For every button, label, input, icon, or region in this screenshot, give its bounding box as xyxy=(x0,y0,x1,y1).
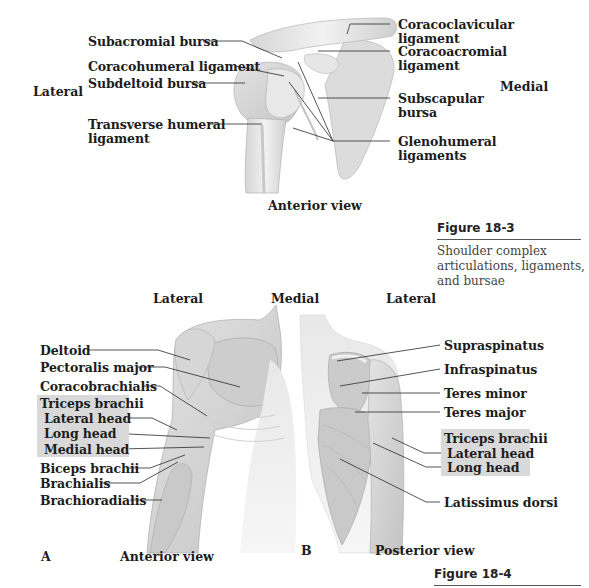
figure-18-4-rule xyxy=(434,585,581,586)
direction-medial-center: Medial xyxy=(271,291,319,306)
label-triceps-brachii-a: Triceps brachii xyxy=(40,396,144,411)
view-label-fig-18-3: Anterior view xyxy=(268,198,362,213)
label-glenohumeral: Glenohumeral xyxy=(398,134,496,149)
figure-18-3-title: Figure 18-3 xyxy=(437,221,515,235)
label-deltoid: Deltoid xyxy=(40,343,90,358)
view-label-posterior: Posterior view xyxy=(375,543,475,558)
figure-18-4-title: Figure 18-4 xyxy=(434,567,512,581)
label-coracoacromial-ligament: ligament xyxy=(398,58,460,73)
label-subscapular: Subscapular xyxy=(398,91,484,106)
label-medial-head-a: Medial head xyxy=(44,442,129,457)
label-biceps-brachii: Biceps brachii xyxy=(40,461,139,476)
caption-line-1: Shoulder complex xyxy=(437,244,589,259)
label-subdeltoid-bursa: Subdeltoid bursa xyxy=(88,76,206,91)
anterior-arm-illustration xyxy=(147,305,296,553)
label-transverse-humeral: Transverse humeral xyxy=(88,117,225,132)
direction-lateral-right: Lateral xyxy=(386,291,436,306)
direction-lateral-fig-18-3: Lateral xyxy=(33,84,83,99)
label-lateral-head-b: Lateral head xyxy=(447,446,534,461)
panel-letter-b: B xyxy=(301,543,312,558)
label-brachioradialis: Brachioradialis xyxy=(40,493,146,508)
caption-line-2: articulations, ligaments, xyxy=(437,259,589,274)
direction-medial-fig-18-3: Medial xyxy=(500,79,548,94)
label-pectoralis-major: Pectoralis major xyxy=(40,360,153,375)
caption-line-3: and bursae xyxy=(437,274,589,289)
label-triceps-brachii-b: Triceps brachii xyxy=(444,431,548,446)
figure-18-3-rule xyxy=(437,239,581,240)
view-label-anterior: Anterior view xyxy=(120,549,214,564)
label-long-head-b: Long head xyxy=(447,460,519,475)
panel-letter-a: A xyxy=(41,549,51,564)
label-coracoclavicular: Coracoclavicular xyxy=(398,17,514,32)
label-infraspinatus: Infraspinatus xyxy=(444,362,537,377)
label-lateral-head-a: Lateral head xyxy=(44,411,131,426)
posterior-arm-illustration xyxy=(300,315,404,553)
label-glenohumeral-ligaments: ligaments xyxy=(398,148,467,163)
label-brachialis: Brachialis xyxy=(40,476,110,491)
label-coracohumeral-ligament: Coracohumeral ligament xyxy=(88,59,260,74)
label-latissimus-dorsi: Latissimus dorsi xyxy=(444,495,558,510)
label-long-head-a: Long head xyxy=(44,426,116,441)
label-transverse-humeral-ligament: ligament xyxy=(88,131,150,146)
label-supraspinatus: Supraspinatus xyxy=(444,338,544,353)
label-teres-minor: Teres minor xyxy=(444,386,527,401)
label-subscapular-bursa: bursa xyxy=(398,105,437,120)
direction-lateral-left: Lateral xyxy=(153,291,203,306)
label-subacromial-bursa: Subacromial bursa xyxy=(88,34,219,49)
label-coracoacromial: Coracoacromial xyxy=(398,44,507,59)
figure-18-3-caption: Shoulder complex articulations, ligament… xyxy=(437,244,589,289)
label-coracobrachialis: Coracobrachialis xyxy=(40,379,157,394)
label-teres-major: Teres major xyxy=(444,405,525,420)
shoulder-joint-illustration xyxy=(234,18,397,193)
